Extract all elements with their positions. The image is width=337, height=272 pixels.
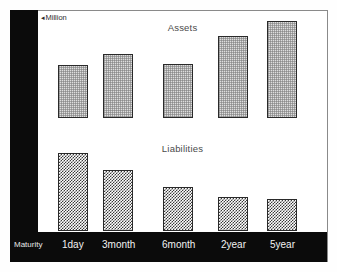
bar-liabilities-3month: [103, 170, 133, 231]
bar-assets-6month: [163, 64, 193, 118]
axis-title-maturity: Maturity: [14, 240, 42, 249]
tick-label-2year: 2year: [221, 239, 246, 250]
left-black-sidebar: [10, 10, 38, 262]
panel-assets: Assets: [38, 11, 327, 120]
plot-area-liabilities: [38, 119, 327, 231]
bar-assets-2year: [218, 36, 248, 118]
tick-label-1day: 1day: [62, 239, 84, 250]
panel-liabilities: Liabilities: [38, 119, 327, 232]
bar-liabilities-1day: [58, 153, 88, 231]
left-triangle-icon: ◂: [41, 14, 45, 21]
bar-assets-1day: [58, 65, 88, 118]
bar-liabilities-6month: [163, 187, 193, 231]
plot-area-assets: [38, 11, 327, 118]
tick-label-3month: 3month: [102, 239, 135, 250]
unit-label-text: Million: [46, 13, 67, 22]
bar-chart-figure: Assets Liabilities ◂Million Maturity 1da…: [0, 0, 337, 272]
tick-label-5year: 5year: [270, 239, 295, 250]
bar-liabilities-5year: [267, 199, 297, 231]
unit-label: ◂Million: [41, 13, 67, 22]
bar-assets-3month: [103, 54, 133, 118]
tick-label-6month: 6month: [162, 239, 195, 250]
bar-liabilities-2year: [218, 197, 248, 231]
bar-assets-5year: [267, 21, 297, 118]
